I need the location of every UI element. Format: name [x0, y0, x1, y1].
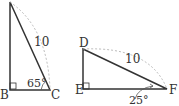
- vertex-label-d: D: [79, 36, 89, 50]
- right-angle-marker-b: [10, 83, 16, 89]
- hypotenuse-label-right: 10: [125, 52, 140, 66]
- vertex-label-e: E: [75, 83, 84, 97]
- angle-label-c: 65°: [27, 77, 47, 90]
- triangle-right: 10 25° D E F: [75, 36, 177, 106]
- vertex-label-b: B: [0, 88, 9, 102]
- vertex-label-f: F: [169, 83, 177, 97]
- vertex-label-c: C: [51, 88, 60, 102]
- triangle-left: 10 65° B C: [0, 2, 60, 102]
- right-angle-marker-e: [83, 83, 89, 89]
- angle-label-f: 25°: [129, 94, 149, 106]
- hypotenuse-label-left: 10: [34, 35, 49, 49]
- triangles-diagram: 10 65° B C 10 25° D E F: [0, 0, 179, 106]
